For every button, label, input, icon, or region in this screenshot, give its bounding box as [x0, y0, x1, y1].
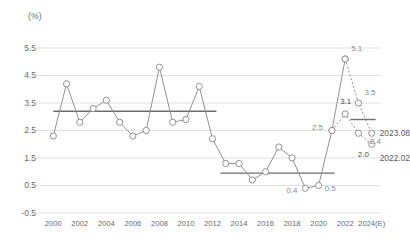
- data-point-marker[interactable]: [50, 133, 56, 139]
- data-point-marker[interactable]: [316, 182, 322, 188]
- series-line-actual: [53, 59, 345, 188]
- data-label-0.4: 0.4: [286, 186, 297, 195]
- data-point-marker[interactable]: [117, 119, 123, 125]
- data-point-marker[interactable]: [90, 105, 96, 111]
- data-point-marker[interactable]: [196, 83, 202, 89]
- data-point-marker[interactable]: [276, 144, 282, 150]
- data-point-marker[interactable]: [369, 130, 375, 136]
- data-point-marker[interactable]: [103, 97, 109, 103]
- data-point-marker[interactable]: [130, 133, 136, 139]
- data-point-marker[interactable]: [209, 136, 215, 142]
- data-label-2.5: 2.5: [312, 123, 323, 132]
- data-point-marker[interactable]: [302, 185, 308, 191]
- data-point-marker[interactable]: [289, 155, 295, 161]
- data-point-marker[interactable]: [223, 160, 229, 166]
- data-label-2.4: 2.4: [370, 137, 381, 146]
- data-label-5.1: 5.1: [351, 44, 362, 53]
- y-tick-2.5: 2.5: [4, 125, 36, 135]
- data-point-marker[interactable]: [63, 81, 69, 87]
- data-label-3.5: 3.5: [364, 88, 375, 97]
- series-line-2022.02: [332, 114, 372, 144]
- data-point-marker[interactable]: [342, 111, 348, 117]
- legend-entry-2022.02[interactable]: 2022.02: [380, 153, 410, 163]
- data-point-marker[interactable]: [329, 127, 335, 133]
- y-tick-0.5: 0.5: [4, 180, 36, 190]
- data-point-marker[interactable]: [342, 56, 348, 62]
- data-point-marker[interactable]: [156, 64, 162, 70]
- data-label-0.5: 0.5: [325, 184, 336, 193]
- y-tick-3.5: 3.5: [4, 98, 36, 108]
- data-point-marker[interactable]: [77, 119, 83, 125]
- x-tick-2024(E): 2024(E): [348, 219, 396, 228]
- data-point-marker[interactable]: [355, 100, 361, 106]
- data-point-marker[interactable]: [236, 160, 242, 166]
- data-point-marker[interactable]: [355, 130, 361, 136]
- data-point-marker[interactable]: [183, 116, 189, 122]
- y-tick-1.5: 1.5: [4, 153, 36, 163]
- data-point-marker[interactable]: [262, 169, 268, 175]
- data-label-3.1: 3.1: [340, 97, 351, 106]
- y-tick-4.5: 4.5: [4, 70, 36, 80]
- data-label-2.0: 2.0: [358, 150, 369, 159]
- y-tick-5.5: 5.5: [4, 43, 36, 53]
- data-point-marker[interactable]: [143, 127, 149, 133]
- y-tick--0.5: -0.5: [4, 208, 36, 218]
- data-point-marker[interactable]: [249, 177, 255, 183]
- legend-entry-2023.08[interactable]: 2023.08: [380, 128, 410, 138]
- data-point-marker[interactable]: [170, 119, 176, 125]
